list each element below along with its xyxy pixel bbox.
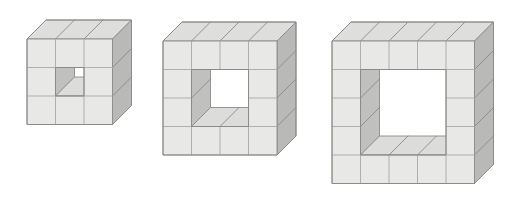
cube-frame-5x5 bbox=[332, 22, 494, 184]
cube-frame-3x3 bbox=[27, 20, 132, 125]
figure-canvas: Three isometric cube-block frames of inc… bbox=[0, 0, 515, 210]
cube-frames-illustration bbox=[0, 0, 515, 210]
cube-frame-4x4 bbox=[163, 22, 296, 155]
top-face bbox=[332, 22, 494, 41]
right-face bbox=[475, 22, 494, 184]
